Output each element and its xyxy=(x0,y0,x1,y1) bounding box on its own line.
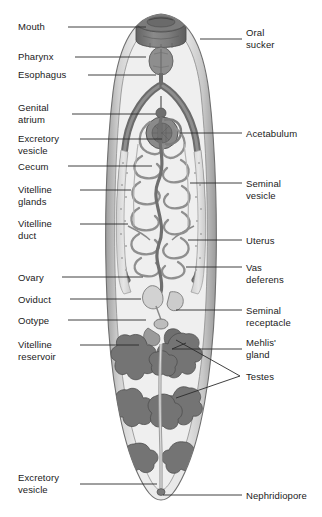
label-acetabulum: Acetabulum xyxy=(246,128,297,140)
label-testes: Testes xyxy=(246,371,274,383)
label-nephridiopore: Nephridiopore xyxy=(246,490,307,502)
label-oviduct: Oviduct xyxy=(18,294,51,306)
seminal-receptacle-structure xyxy=(167,292,183,311)
label-oral-sucker: Oral sucker xyxy=(246,27,275,50)
label-esophagus: Esophagus xyxy=(18,69,66,81)
ootype-structure xyxy=(154,319,168,329)
label-vitelline-duct: Vitelline duct xyxy=(18,218,52,241)
diagram-canvas: MouthPharynxEsophagusGenital atriumExcre… xyxy=(0,0,322,517)
label-mouth: Mouth xyxy=(18,21,45,33)
label-excretory-vesicle-1: Excretory vesicle xyxy=(18,133,59,156)
label-seminal-receptacle: Seminal receptacle xyxy=(246,305,291,328)
label-cecum: Cecum xyxy=(18,161,49,173)
label-genital-atrium: Genital atrium xyxy=(18,102,49,125)
oral-sucker-structure xyxy=(136,12,186,49)
label-pharynx: Pharynx xyxy=(18,51,54,63)
label-seminal-vesicle: Seminal vesicle xyxy=(246,178,281,201)
ovary-structure xyxy=(143,286,163,309)
label-vitelline-reservoir: Vitelline reservoir xyxy=(18,339,56,362)
label-vitelline-glands: Vitelline glands xyxy=(18,184,52,207)
label-ootype: Ootype xyxy=(18,315,49,327)
label-excretory-vesicle-2: Excretory vesicle xyxy=(18,472,59,495)
label-vas-deferens: Vas deferens xyxy=(246,262,284,285)
label-ovary: Ovary xyxy=(18,272,44,284)
pharynx-structure xyxy=(149,47,173,75)
label-mehlis-gland: Mehlis' gland xyxy=(246,337,276,360)
nephridiopore-structure xyxy=(157,489,165,496)
label-uterus: Uterus xyxy=(246,235,275,247)
